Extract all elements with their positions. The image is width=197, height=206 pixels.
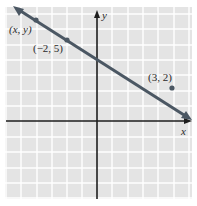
label-point-neg2-5: (−2, 5) xyxy=(33,43,63,54)
point-neg2-5-marker xyxy=(64,37,69,42)
label-general-point: (x, y) xyxy=(9,24,32,35)
label-point-3-2: (3, 2) xyxy=(148,72,172,83)
x-axis-label: x xyxy=(181,126,186,137)
point-3-2-marker xyxy=(169,85,174,90)
y-axis-label: y xyxy=(102,10,107,21)
point-x-y-marker xyxy=(33,17,38,22)
